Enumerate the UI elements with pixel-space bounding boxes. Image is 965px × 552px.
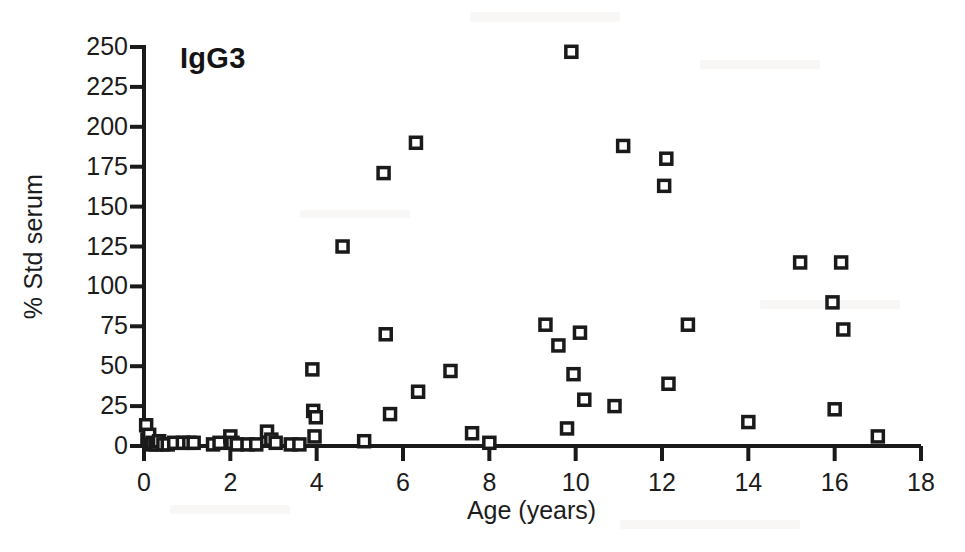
- x-tick-label: 0: [114, 470, 174, 495]
- x-axis-tick-labels: 024681012141618: [0, 0, 965, 552]
- x-tick-label: 16: [805, 470, 865, 495]
- y-axis-title: % Std serum: [19, 152, 48, 342]
- x-tick-label: 10: [546, 470, 606, 495]
- x-tick-label: 8: [459, 470, 519, 495]
- x-tick-label: 14: [718, 470, 778, 495]
- x-tick-label: 6: [373, 470, 433, 495]
- x-tick-label: 18: [891, 470, 951, 495]
- scatter-chart-figure: IgG3 0255075100125150175200225250 024681…: [0, 0, 965, 552]
- x-axis-title: Age (years): [143, 496, 920, 525]
- x-tick-label: 4: [287, 470, 347, 495]
- x-tick-label: 12: [632, 470, 692, 495]
- x-tick-label: 2: [200, 470, 260, 495]
